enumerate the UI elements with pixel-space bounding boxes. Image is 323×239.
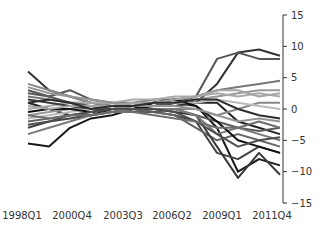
y-ticks: 151050−5−10−15 (283, 10, 312, 209)
y-tick-label: −15 (291, 198, 312, 209)
y-tick-label: 5 (291, 72, 297, 83)
x-tick-label: 2011Q4 (252, 210, 292, 221)
y-tick-label: 0 (291, 104, 297, 115)
x-tick-label: 2009Q1 (202, 210, 242, 221)
y-tick-label: 15 (291, 10, 304, 21)
series-lines (28, 50, 280, 178)
series-line-s2 (28, 50, 280, 106)
y-tick-label: −10 (291, 166, 312, 177)
y-tick-label: 10 (291, 41, 304, 52)
x-tick-label: 1998Q1 (2, 210, 42, 221)
y-tick-label: −5 (291, 135, 306, 146)
x-tick-label: 2006Q2 (152, 210, 192, 221)
x-tick-labels: 1998Q12000Q42003Q32006Q22009Q12011Q4 (2, 210, 292, 221)
x-tick-label: 2003Q3 (103, 210, 143, 221)
line-chart: 151050−5−10−15 1998Q12000Q42003Q32006Q22… (0, 0, 323, 239)
x-tick-label: 2000Q4 (52, 210, 92, 221)
series-line-s3 (28, 53, 280, 106)
